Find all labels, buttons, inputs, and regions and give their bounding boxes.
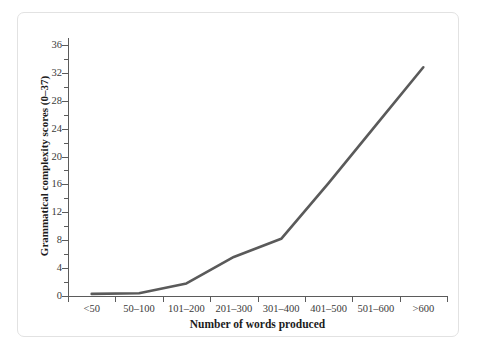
series-svg [0,0,477,352]
data-line-grammatical-complexity [92,67,424,294]
plot-area: Grammatical complexity scores (0–37) Num… [0,0,477,352]
chart-figure: Grammatical complexity scores (0–37) Num… [0,0,477,352]
